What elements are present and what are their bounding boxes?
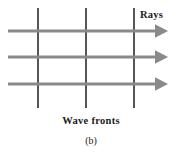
ray-arrows-group xyxy=(8,31,162,84)
subfigure-caption: (b) xyxy=(0,136,182,146)
diagram-canvas xyxy=(0,0,182,155)
rays-label: Rays xyxy=(140,10,163,21)
wave-fronts-label: Wave fronts xyxy=(0,116,182,127)
wave-fronts-and-rays-figure: Rays Wave fronts (b) xyxy=(0,0,182,155)
